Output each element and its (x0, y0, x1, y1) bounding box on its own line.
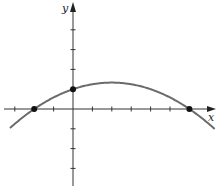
y-axis-arrow-icon (70, 2, 76, 12)
y-axis-label: y (61, 2, 69, 15)
parabola-curve (10, 83, 215, 129)
x-axis-label: x (208, 111, 215, 124)
parabola-graph: x y (0, 0, 220, 188)
x-intercept-right-point (186, 106, 192, 112)
y-intercept-point (70, 86, 76, 92)
x-intercept-left-point (31, 106, 37, 112)
